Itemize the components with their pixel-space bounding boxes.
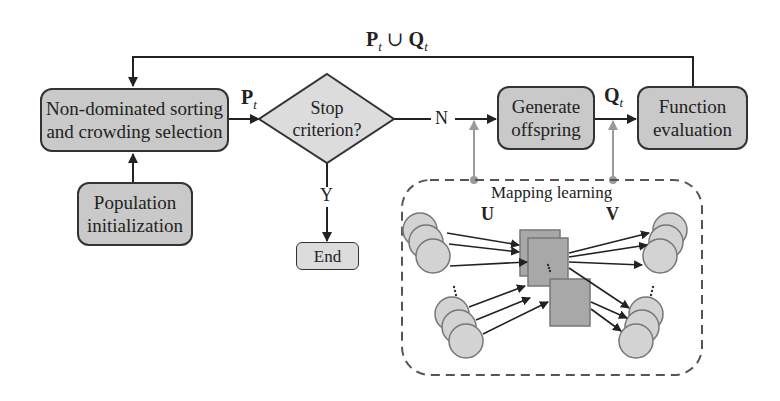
no-label: N xyxy=(435,108,448,129)
mapping-to-qt-arrow xyxy=(609,121,617,184)
selection-box: Non-dominated sortingand crowding select… xyxy=(40,88,229,152)
generate-line2: offspring xyxy=(511,118,580,141)
feedback-label: Pt ∪ Qt xyxy=(366,27,428,55)
population-initialization-box: Populationinitialization xyxy=(77,182,193,246)
yes-label: Y xyxy=(320,185,333,206)
evaluation-line2: evaluation xyxy=(653,118,732,141)
v-label: V xyxy=(606,204,619,225)
selection-line1: Non-dominated sorting xyxy=(46,97,223,120)
qt-label-q: Q xyxy=(604,84,620,106)
selection-line2: and crowding selection xyxy=(46,120,223,143)
flowchart: Pt ∪ Qt Non-dominated sortingand crowdin… xyxy=(0,0,780,401)
feedback-loop-arrow xyxy=(133,57,693,86)
mapping-learning-title: Mapping learning xyxy=(491,183,612,203)
qt-label: Qt xyxy=(604,84,623,111)
pt-label-p: P xyxy=(241,86,253,108)
u-label: U xyxy=(481,204,494,225)
stop-criterion-label: Stop criterion? xyxy=(277,97,377,141)
generate-offspring-box: Generateoffspring xyxy=(497,86,595,150)
feedback-label-sub2: t xyxy=(424,39,428,54)
pt-label-sub: t xyxy=(253,97,257,112)
evaluation-line1: Function xyxy=(653,95,732,118)
union-symbol: ∪ xyxy=(382,28,409,50)
mapping-to-n-arrow xyxy=(470,121,478,184)
pt-label: Pt xyxy=(241,86,257,113)
feedback-label-q: Q xyxy=(409,28,425,50)
generate-line1: Generate xyxy=(511,95,580,118)
end-box: End xyxy=(296,242,359,270)
feedback-label-p: P xyxy=(366,28,378,50)
init-line2: initialization xyxy=(87,214,183,237)
qt-label-sub: t xyxy=(620,95,624,110)
stop-line1: Stop xyxy=(277,97,377,119)
function-evaluation-box: Functionevaluation xyxy=(637,86,748,150)
init-line1: Population xyxy=(87,191,183,214)
stop-line2: criterion? xyxy=(277,119,377,141)
